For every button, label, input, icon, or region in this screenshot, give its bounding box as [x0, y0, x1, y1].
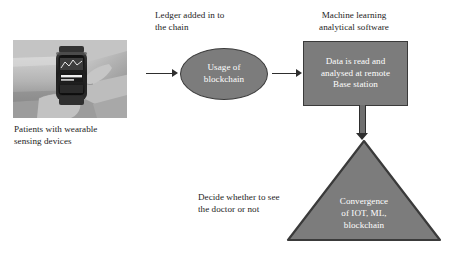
machine-learning-label: Machine learning analytical software [288, 10, 420, 33]
node-base-station-line-1: Data is read and [321, 56, 390, 68]
machine-learning-label-line-2: analytical software [288, 22, 420, 34]
node-convergence-line-3: blockchain [286, 220, 442, 232]
wearable-device-photo [13, 40, 127, 118]
node-convergence-line-1: Convergence [286, 196, 442, 208]
node-usage-of-blockchain-line-1: Usage of [204, 62, 244, 74]
connector-rectangle-to-triangle-line [359, 105, 366, 135]
node-base-station-line-3: Base station [321, 79, 390, 91]
diagram-canvas: Patients with wearable sensing devices L… [0, 0, 449, 254]
ledger-label-line-2: the chain [155, 22, 275, 34]
node-usage-of-blockchain-line-2: blockchain [204, 74, 244, 86]
node-base-station-line-2: analysed at remote [321, 68, 390, 80]
node-base-station: Data is read and analysed at remote Base… [303, 41, 408, 106]
connector-ellipse-to-rectangle-arrowhead [296, 69, 302, 77]
machine-learning-label-line-1: Machine learning [288, 10, 420, 22]
node-usage-of-blockchain-text: Usage of blockchain [204, 62, 244, 86]
connector-photo-to-ellipse-line [146, 73, 173, 75]
node-base-station-text: Data is read and analysed at remote Base… [321, 56, 390, 92]
node-convergence-line-2: of IOT, ML, [286, 208, 442, 220]
node-usage-of-blockchain: Usage of blockchain [180, 48, 268, 100]
node-convergence: Convergence of IOT, ML, blockchain [286, 139, 442, 242]
photo-caption-line-2: sensing devices [14, 136, 164, 148]
ledger-label: Ledger added in to the chain [155, 10, 275, 33]
node-convergence-text: Convergence of IOT, ML, blockchain [286, 196, 442, 232]
photo-caption: Patients with wearable sensing devices [14, 124, 164, 147]
photo-caption-line-1: Patients with wearable [14, 124, 164, 136]
connector-photo-to-ellipse-arrowhead [172, 69, 178, 77]
ledger-label-line-1: Ledger added in to [155, 10, 275, 22]
connector-ellipse-to-rectangle-line [272, 73, 297, 75]
